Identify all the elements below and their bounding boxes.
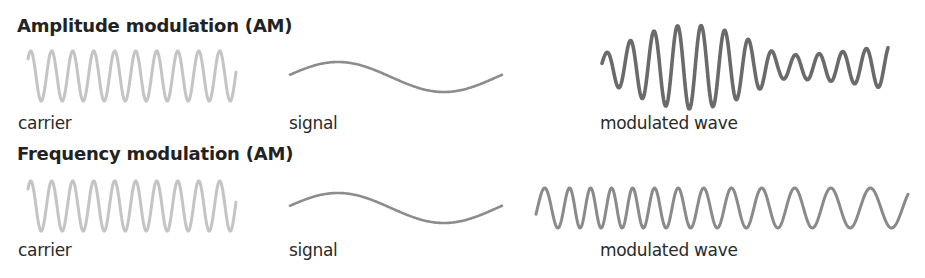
fm-carrier-wave <box>28 181 236 231</box>
fm-signal-wave <box>290 193 502 223</box>
am-modulated-wave <box>602 26 888 109</box>
am-carrier-wave <box>28 51 236 101</box>
am-signal-wave <box>290 62 502 92</box>
fm-modulated-wave <box>536 188 908 228</box>
waveform-diagram <box>0 0 925 278</box>
